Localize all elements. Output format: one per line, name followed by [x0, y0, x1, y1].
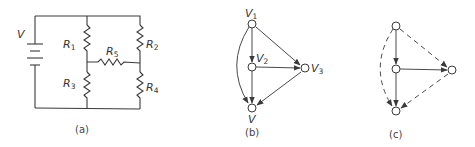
label-r4: R4: [146, 81, 159, 95]
battery-icon: [27, 44, 43, 65]
edge-top-bottom-dashed-curved: [380, 29, 393, 106]
resistor-r3: [84, 72, 90, 108]
node-v3: [301, 64, 309, 72]
node-bottom: [392, 107, 400, 115]
label-v: V: [248, 113, 257, 126]
node-top: [392, 22, 400, 30]
edge-right-bottom-dashed: [401, 74, 448, 108]
source-label: V: [17, 28, 26, 41]
label-r5: R5: [106, 45, 119, 59]
resistor-r4: [137, 72, 143, 109]
edge-v3-v: [257, 72, 301, 105]
edge-v2-v3: [256, 67, 300, 68]
caption-b: (b): [245, 127, 259, 138]
node-v: [248, 104, 256, 112]
edge-top-right-dashed: [400, 29, 447, 67]
label-v2: V2: [256, 52, 269, 66]
edge-middle-right: [400, 69, 447, 70]
figure-canvas: V R1 R2 R3 R4 R5 (a) V1: [0, 0, 475, 147]
label-v1: V1: [245, 7, 258, 21]
label-r1: R1: [63, 38, 76, 52]
label-r3: R3: [63, 77, 76, 91]
resistor-r2: [137, 25, 143, 63]
panel-b-graph: V1 V2 V3 V (b): [237, 7, 324, 138]
node-middle: [392, 65, 400, 73]
caption-c: (c): [389, 129, 402, 140]
label-v3: V3: [311, 62, 324, 76]
bottom-wire: [35, 108, 140, 109]
resistor-r5: [87, 59, 140, 65]
label-r2: R2: [146, 38, 159, 52]
edge-v1-v-curved: [237, 27, 249, 103]
node-v2: [248, 63, 256, 71]
node-right: [448, 66, 456, 74]
node-v1: [248, 20, 256, 28]
resistor-r1: [84, 25, 90, 62]
panel-a-circuit: V R1 R2 R3 R4 R5 (a): [17, 16, 159, 135]
caption-a: (a): [75, 124, 89, 135]
panel-c-graph: (c): [380, 22, 456, 140]
